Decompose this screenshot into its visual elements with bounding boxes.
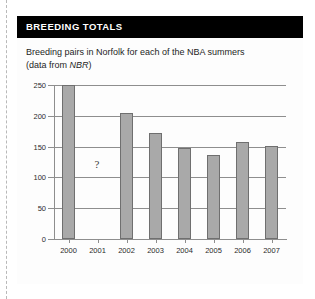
page-fold-line xyxy=(6,0,7,299)
y-axis-tick-label: 250 xyxy=(26,81,46,90)
gridline xyxy=(54,147,286,148)
bar-2002 xyxy=(120,113,133,239)
x-axis-tick-label-2007: 2007 xyxy=(257,246,287,255)
bar-2000 xyxy=(62,85,75,239)
y-axis-tick-mark xyxy=(48,177,54,178)
panel-title: BREEDING TOTALS xyxy=(26,21,123,32)
breeding-totals-panel: BREEDING TOTALS Breeding pairs in Norfol… xyxy=(17,16,303,284)
x-axis-tick-label-2000: 2000 xyxy=(54,246,84,255)
y-axis-tick-label: 50 xyxy=(26,204,46,213)
bar-2003 xyxy=(149,133,162,239)
x-axis-line xyxy=(54,239,287,240)
x-axis-tick-label-2005: 2005 xyxy=(199,246,229,255)
y-axis-tick-mark xyxy=(48,239,54,240)
y-axis-tick-mark xyxy=(48,208,54,209)
gridline xyxy=(54,208,286,209)
y-axis-tick-label: 0 xyxy=(26,235,46,244)
y-axis-tick-mark xyxy=(48,85,54,86)
caption-suffix: ) xyxy=(89,60,92,70)
gridline xyxy=(54,85,286,86)
gridline xyxy=(54,177,286,178)
bar-2007 xyxy=(265,146,278,239)
x-axis-tick-label-2004: 2004 xyxy=(170,246,200,255)
gridline xyxy=(54,116,286,117)
bar-2006 xyxy=(236,142,249,239)
x-axis-tick-label-2001: 2001 xyxy=(83,246,113,255)
bar-chart: ? 05010015020025020002001200220032004200… xyxy=(26,79,296,279)
bar-2004 xyxy=(178,148,191,239)
x-axis-tick-label-2003: 2003 xyxy=(141,246,171,255)
caption-line-1: Breeding pairs in Norfolk for each of th… xyxy=(26,47,245,57)
caption-prefix: (data from xyxy=(26,60,70,70)
x-axis-tick-mark xyxy=(127,239,128,243)
y-axis-tick-label: 100 xyxy=(26,173,46,182)
caption-source: NBR xyxy=(70,60,89,70)
y-axis-tick-mark xyxy=(48,116,54,117)
chart-caption: Breeding pairs in Norfolk for each of th… xyxy=(26,46,296,71)
bar-2005 xyxy=(207,155,220,239)
x-axis-tick-mark xyxy=(243,239,244,243)
y-axis-tick-mark xyxy=(48,147,54,148)
panel-header-bar: BREEDING TOTALS xyxy=(17,16,303,38)
x-axis-tick-mark xyxy=(98,239,99,243)
missing-data-marker: ? xyxy=(95,158,100,170)
x-axis-tick-mark xyxy=(272,239,273,243)
x-axis-tick-label-2006: 2006 xyxy=(228,246,258,255)
x-axis-tick-mark xyxy=(69,239,70,243)
x-axis-tick-mark xyxy=(156,239,157,243)
y-axis-tick-label: 200 xyxy=(26,112,46,121)
x-axis-tick-label-2002: 2002 xyxy=(112,246,142,255)
x-axis-tick-mark xyxy=(185,239,186,243)
plot-area: ? xyxy=(54,85,286,239)
x-axis-tick-mark xyxy=(214,239,215,243)
y-axis-tick-label: 150 xyxy=(26,143,46,152)
